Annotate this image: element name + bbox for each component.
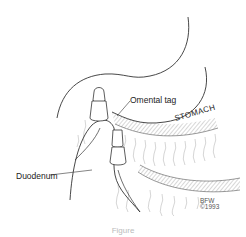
figure-caption: Figure: [0, 226, 246, 235]
omental-tag-label: Omental tag: [130, 95, 176, 105]
omental-tag-leader: [117, 101, 130, 116]
anatomical-illustration: Omental tag STOMACH Duodenum BFW ©1993 F…: [0, 0, 246, 237]
duodenum-label: Duodenum: [16, 171, 58, 181]
duodenum-contour: [70, 120, 140, 212]
artist-signature: BFW ©1993: [200, 198, 219, 210]
signature-year: ©1993: [200, 204, 219, 210]
lower-hatched-band: [138, 165, 240, 192]
omentum-texture: [77, 120, 216, 216]
